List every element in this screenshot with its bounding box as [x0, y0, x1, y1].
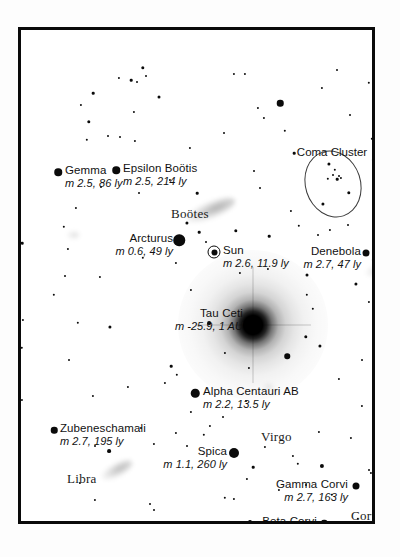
field-star: [107, 135, 109, 137]
tau-ceti-spike-vertical: [253, 267, 254, 383]
field-star: [347, 224, 349, 226]
field-star: [349, 114, 351, 116]
field-star: [127, 386, 129, 388]
field-star: [203, 434, 205, 436]
field-star: [239, 272, 241, 274]
field-star: [368, 301, 370, 303]
object-name: Alpha Centauri AB: [203, 385, 299, 398]
field-star: [222, 416, 224, 418]
star-arcturus: [173, 234, 185, 246]
field-star: [233, 73, 235, 75]
constellation-label-virgo: Virgo: [261, 429, 292, 445]
object-label-arcturus: Arcturusm 0.6, 49 ly: [116, 232, 173, 257]
object-name: Zubeneschamali: [60, 422, 146, 435]
field-star: [21, 399, 23, 401]
faint-smudge-a-smudge: [67, 231, 80, 240]
cluster-member-star: [332, 174, 334, 176]
object-magnitude-distance: m 2.7, 163 ly: [276, 491, 348, 503]
field-star: [92, 92, 95, 95]
field-star: [21, 242, 23, 245]
sky-chart-frame: Coma ClusterGemmam 2.5, 86 lyEpsilon Boö…: [18, 27, 375, 524]
field-star: [370, 472, 372, 474]
star-epsilon-bo-tis: [112, 166, 120, 174]
object-label-tau-ceti: Tau Cetim -25.9, 1 AU: [175, 307, 243, 332]
field-star: [318, 344, 321, 347]
field-star: [175, 432, 177, 434]
field-star: [304, 335, 307, 338]
field-star: [368, 82, 370, 84]
field-star: [268, 235, 271, 238]
object-magnitude-distance: m 0.6, 49 ly: [116, 245, 173, 257]
field-star: [145, 75, 147, 77]
cluster-member-star: [327, 162, 330, 165]
sky-field: Coma ClusterGemmam 2.5, 86 lyEpsilon Boö…: [21, 30, 372, 521]
field-star: [244, 73, 246, 75]
field-star: [252, 466, 255, 469]
object-magnitude-distance: m 2.7, 47 ly: [304, 258, 361, 270]
field-star: [170, 365, 173, 368]
field-star: [68, 359, 70, 361]
field-star: [138, 192, 140, 194]
cluster-member-star: [336, 178, 339, 181]
field-star: [321, 87, 323, 89]
cluster-member-star: [340, 177, 342, 179]
field-star: [248, 367, 250, 369]
field-star: [361, 359, 363, 361]
field-star: [107, 449, 111, 453]
field-star: [118, 77, 120, 79]
object-name: Beta Corvi: [253, 515, 317, 521]
field-star: [133, 111, 135, 113]
field-star: [153, 509, 155, 511]
field-star: [293, 152, 296, 155]
field-star: [149, 503, 151, 505]
field-star: [246, 478, 248, 480]
object-magnitude-distance: m -25.9, 1 AU: [175, 320, 243, 332]
object-name: Arcturus: [116, 232, 173, 245]
constellation-label-corvus: Corvus: [351, 508, 372, 521]
libra-galaxy-smudge: [99, 456, 136, 484]
field-star: [67, 248, 69, 250]
field-star: [224, 497, 226, 499]
field-star: [189, 147, 191, 149]
field-star: [75, 207, 77, 209]
field-star: [257, 107, 259, 109]
field-star: [86, 139, 88, 141]
object-label-epsilon-bo-tis: Epsilon Boötism 2.5, 214 ly: [123, 162, 197, 187]
field-star: [21, 347, 23, 349]
field-star: [190, 289, 192, 291]
field-star: [77, 322, 79, 324]
field-star: [361, 405, 363, 407]
field-star: [64, 275, 66, 277]
field-star: [329, 229, 331, 231]
object-magnitude-distance: m 2.6, 11.9 ly: [223, 257, 289, 269]
field-star: [336, 69, 338, 71]
field-star: [53, 294, 55, 296]
field-star: [263, 117, 265, 119]
field-star: [354, 282, 357, 285]
field-star: [22, 319, 24, 321]
star-gemma: [54, 168, 62, 176]
cluster-member-star: [334, 169, 336, 171]
star-chart-root: Coma ClusterGemmam 2.5, 86 lyEpsilon Boö…: [0, 0, 400, 557]
star-gamma-corvi: [353, 483, 360, 490]
field-star: [306, 294, 308, 296]
field-star: [119, 136, 121, 138]
field-star: [176, 374, 178, 376]
field-star: [292, 455, 294, 457]
cluster-member-star: [347, 191, 350, 194]
field-star: [338, 378, 340, 380]
field-star: [277, 100, 284, 107]
object-label-zubeneschamali: Zubeneschamalim 2.7, 195 ly: [60, 422, 146, 447]
field-star: [94, 499, 96, 501]
object-magnitude-distance: m 2.5, 86 ly: [65, 177, 122, 189]
star-zubeneschamali: [51, 427, 58, 434]
star-beta-corvi: [321, 520, 328, 521]
cluster-member-star: [327, 178, 329, 180]
field-star: [108, 325, 111, 328]
constellation-label-bo-tes: Boötes: [171, 206, 209, 222]
star-spica: [229, 448, 239, 458]
field-star: [297, 463, 299, 465]
field-star: [92, 395, 94, 397]
field-star: [259, 187, 261, 189]
field-star: [284, 353, 290, 359]
